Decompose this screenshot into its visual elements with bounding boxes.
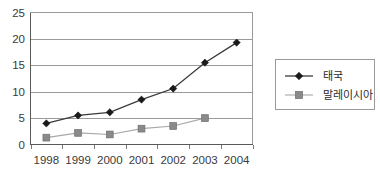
x-axis-tick-label: 1998	[34, 154, 60, 166]
plot-area-frame	[31, 13, 253, 145]
data-point-marker	[138, 125, 145, 132]
legend: 태국말레이시아	[276, 60, 375, 110]
data-point-marker	[202, 115, 209, 122]
y-axis-tick-label: 5	[19, 112, 25, 124]
x-axis-tick-label: 2000	[97, 154, 123, 166]
line-chart: 0510152025 1998199920002001200220032004 …	[0, 0, 380, 177]
x-axis-tick-label: 2003	[192, 154, 218, 166]
data-point-marker	[295, 91, 302, 98]
y-axis-tick-label: 20	[12, 33, 25, 45]
y-axis-tick-label: 10	[12, 86, 25, 98]
chart-canvas: 0510152025 1998199920002001200220032004 …	[0, 0, 380, 177]
x-axis-tick-labels: 1998199920002001200220032004	[34, 154, 250, 166]
legend-frame	[276, 60, 375, 110]
x-axis-tick-label: 2004	[224, 154, 250, 166]
y-axis-tick-label: 25	[12, 7, 25, 19]
y-axis-tick-label: 0	[19, 139, 25, 151]
data-point-marker	[170, 123, 177, 130]
x-axis-tick-label: 1999	[65, 154, 91, 166]
x-axis-tick-label: 2001	[129, 154, 155, 166]
data-point-marker	[106, 131, 113, 138]
y-axis-tick-label: 15	[12, 59, 25, 71]
data-point-marker	[43, 134, 50, 141]
x-axis-tick-label: 2002	[160, 154, 186, 166]
data-point-marker	[75, 129, 82, 136]
legend-label: 태국	[323, 70, 343, 83]
legend-label: 말레이시아	[323, 89, 373, 102]
